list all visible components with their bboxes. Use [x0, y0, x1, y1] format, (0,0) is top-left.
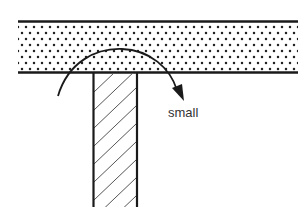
arrowhead-icon	[172, 84, 184, 101]
column-hatching	[94, 52, 136, 220]
slab	[18, 22, 298, 73]
moment-label: small	[168, 106, 198, 119]
slab-column-joint-diagram	[0, 0, 308, 220]
column	[94, 52, 138, 220]
slab-fill	[18, 23, 298, 71]
